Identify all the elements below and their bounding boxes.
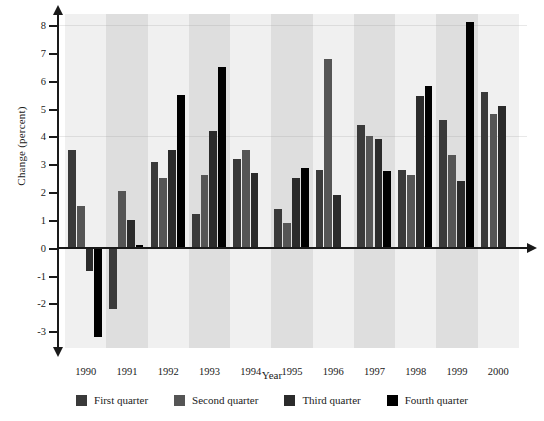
legend-item-4: Fourth quarter bbox=[387, 394, 468, 406]
bar-1994-q2 bbox=[242, 150, 250, 247]
y-axis-title: Change (percent) bbox=[15, 71, 27, 221]
bar-1997-q2 bbox=[366, 136, 374, 247]
legend-swatch-icon-2 bbox=[174, 395, 185, 406]
y-tick-label-0: 0 bbox=[20, 242, 46, 253]
bar-1993-q4 bbox=[218, 67, 226, 248]
bar-1999-q4 bbox=[466, 22, 474, 247]
bar-1991-q3 bbox=[127, 220, 135, 248]
bar-2000-q2 bbox=[490, 114, 498, 248]
bar-1995-q1 bbox=[274, 209, 282, 248]
bar-1990-q2 bbox=[77, 206, 85, 248]
y-tick-label--3: -3 bbox=[20, 326, 46, 337]
bar-1998-q2 bbox=[407, 175, 415, 247]
y-tick-label-4: 4 bbox=[20, 131, 46, 142]
bar-1999-q3 bbox=[457, 181, 465, 248]
gridline-8 bbox=[59, 25, 527, 26]
y-tick-label-2: 2 bbox=[20, 187, 46, 198]
legend-swatch-icon-3 bbox=[284, 395, 295, 406]
y-tick-label-5: 5 bbox=[20, 103, 46, 114]
y-tick-label--1: -1 bbox=[20, 270, 46, 281]
chart-legend: First quarterSecond quarterThird quarter… bbox=[0, 394, 544, 406]
y-axis-arrow-down-icon bbox=[53, 347, 63, 357]
y-tick-label-3: 3 bbox=[20, 159, 46, 170]
bar-1996-q3 bbox=[333, 195, 341, 248]
bar-1990-q1 bbox=[68, 150, 76, 247]
y-tick-2 bbox=[49, 192, 57, 194]
bar-1995-q3 bbox=[292, 178, 300, 248]
y-tick-1 bbox=[49, 220, 57, 222]
y-tick--3 bbox=[49, 331, 57, 333]
y-tick--2 bbox=[49, 303, 57, 305]
bar-1993-q3 bbox=[209, 131, 217, 248]
plot-area: 876543210-1-2-3 199019911992199319941995… bbox=[57, 14, 525, 348]
y-tick-5 bbox=[49, 109, 57, 111]
bar-1995-q2 bbox=[283, 223, 291, 248]
bar-2000-q3 bbox=[498, 106, 506, 248]
bar-1996-q1 bbox=[316, 170, 324, 248]
bar-1999-q2 bbox=[448, 155, 456, 248]
legend-label: Fourth quarter bbox=[405, 394, 468, 406]
y-tick-label-6: 6 bbox=[20, 75, 46, 86]
y-tick-label-1: 1 bbox=[20, 214, 46, 225]
bar-2000-q1 bbox=[481, 92, 489, 248]
bar-1998-q1 bbox=[398, 170, 406, 248]
legend-label: Third quarter bbox=[302, 394, 360, 406]
y-axis-arrow-up-icon bbox=[53, 5, 63, 15]
legend-item-3: Third quarter bbox=[284, 394, 360, 406]
legend-item-2: Second quarter bbox=[174, 394, 258, 406]
bar-1997-q4 bbox=[383, 171, 391, 248]
bar-1992-q1 bbox=[151, 162, 159, 248]
bar-1994-q3 bbox=[251, 173, 259, 248]
bar-1992-q2 bbox=[159, 178, 167, 248]
legend-swatch-icon-4 bbox=[387, 395, 398, 406]
y-tick-8 bbox=[49, 25, 57, 27]
bar-1992-q4 bbox=[177, 95, 185, 248]
quarterly-change-bar-chart: Change (percent) 876543210-1-2-3 1990199… bbox=[0, 0, 544, 421]
x-axis-arrow-icon bbox=[527, 243, 537, 253]
y-tick-4 bbox=[49, 136, 57, 138]
bar-1993-q1 bbox=[192, 214, 200, 247]
bar-1995-q4 bbox=[301, 168, 309, 247]
legend-label: Second quarter bbox=[192, 394, 258, 406]
y-tick-6 bbox=[49, 81, 57, 83]
bar-1990-q3 bbox=[86, 248, 94, 272]
y-tick-label-8: 8 bbox=[20, 20, 46, 31]
gridline-4 bbox=[59, 136, 527, 137]
y-tick-label--2: -2 bbox=[20, 298, 46, 309]
y-tick-label-7: 7 bbox=[20, 47, 46, 58]
legend-item-1: First quarter bbox=[76, 394, 148, 406]
bar-1999-q1 bbox=[439, 120, 447, 248]
bar-1994-q1 bbox=[233, 159, 241, 248]
bar-1990-q4 bbox=[94, 248, 102, 337]
y-axis-line bbox=[57, 14, 59, 348]
bar-1998-q3 bbox=[416, 96, 424, 248]
y-tick-0 bbox=[49, 248, 57, 250]
y-tick-7 bbox=[49, 53, 57, 55]
y-tick-3 bbox=[49, 164, 57, 166]
y-tick--1 bbox=[49, 276, 57, 278]
bar-1991-q1 bbox=[109, 248, 117, 309]
x-axis-title: Year bbox=[0, 369, 544, 381]
bar-1998-q4 bbox=[425, 86, 433, 247]
bar-1991-q2 bbox=[118, 191, 126, 248]
bar-1996-q2 bbox=[324, 59, 332, 248]
x-axis-line bbox=[57, 247, 527, 249]
bar-1997-q1 bbox=[357, 125, 365, 247]
bar-1993-q2 bbox=[201, 175, 209, 247]
legend-label: First quarter bbox=[94, 394, 148, 406]
bar-1997-q3 bbox=[375, 139, 383, 248]
legend-swatch-icon-1 bbox=[76, 395, 87, 406]
bar-1992-q3 bbox=[168, 150, 176, 247]
